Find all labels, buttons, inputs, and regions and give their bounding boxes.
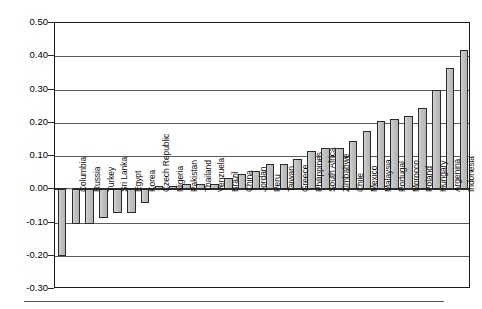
x-axis-tick-label: Morocco <box>412 160 420 192</box>
x-axis-tick-label: Mexico <box>370 166 378 192</box>
x-axis-tick-label: Chile <box>356 173 364 192</box>
x-axis-tick-label: Russia <box>93 167 101 192</box>
x-axis-tick-label: Czech Republic <box>162 134 170 192</box>
x-axis-tick-label: Sri Lanka <box>120 157 128 192</box>
x-axis-tick-label: China <box>245 171 253 193</box>
x-axis-tick-label: India <box>65 172 73 191</box>
x-axis-tick-label: Nigeria <box>176 166 184 192</box>
bar-chart: 0.500.400.300.200.100.00-0.10-0.20-0.30 … <box>0 0 482 309</box>
x-axis-tick-label: Korea <box>148 170 156 192</box>
x-axis-tick-label: Zimbabwe <box>342 154 350 192</box>
x-axis-tick-label: Venzuela <box>217 158 225 192</box>
x-axis-tick-label: Egypt <box>134 171 142 192</box>
x-axis-tick-label: Pakistan <box>190 160 198 192</box>
x-axis-tick-label: Jordan <box>259 167 267 192</box>
x-axis-tick-label: Columbia <box>79 157 87 192</box>
x-axis-tick-label: Argenina <box>453 159 461 192</box>
x-axis-tick-label: Peru <box>273 175 281 193</box>
x-axis-tick-label: South Africa <box>328 148 336 193</box>
x-axis-tick-label: Taiwan <box>287 166 295 192</box>
x-axis-tick-label: Brazil <box>231 172 239 193</box>
x-axis-labels: IndiaColumbiaRussiaTurkeySri LankaEgyptK… <box>0 0 482 309</box>
footer-divider <box>24 301 444 302</box>
x-axis-tick-label: Turkey <box>107 167 115 192</box>
x-axis-tick-label: Hungary <box>439 161 447 192</box>
x-axis-tick-label: Malaysia <box>384 160 392 193</box>
x-axis-tick-label: Poland <box>425 166 433 192</box>
x-axis-tick-label: Portugal <box>398 161 406 192</box>
x-axis-tick-label: Indonesia <box>467 156 475 192</box>
x-axis-tick-label: Thailand <box>204 160 212 192</box>
x-axis-tick-label: Philippines <box>315 152 323 192</box>
x-axis-tick-label: Greece <box>301 165 309 192</box>
